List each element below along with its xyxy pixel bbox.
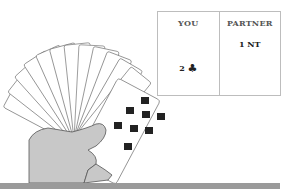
column-you: YOU 2 ♣ xyxy=(158,12,219,95)
column-partner: PARTNER 1 NT xyxy=(219,12,281,95)
column-header-you: YOU xyxy=(158,18,219,28)
bidding-table: YOU 2 ♣ PARTNER 1 NT xyxy=(157,11,281,96)
bid-value: 2 xyxy=(179,63,185,73)
column-header-partner: PARTNER xyxy=(220,18,281,28)
bid-partner: 1 NT xyxy=(220,39,281,49)
card-hand-illustration xyxy=(0,0,175,189)
bid-you: 2 ♣ xyxy=(158,62,219,75)
bottom-divider-bar xyxy=(0,183,280,189)
club-icon: ♣ xyxy=(188,62,198,75)
